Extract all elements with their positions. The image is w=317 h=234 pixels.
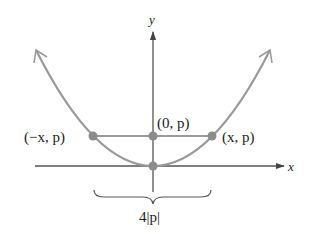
label-focus: (0, p) bbox=[157, 115, 190, 132]
label-right-point: (x, p) bbox=[222, 129, 255, 146]
parabola-diagram: y x (−x, p) (0, p) (x, p) 4|p| bbox=[0, 0, 317, 234]
point-vertex bbox=[149, 162, 158, 171]
brace-icon bbox=[94, 190, 211, 204]
y-axis-label: y bbox=[147, 12, 155, 27]
label-left-point: (−x, p) bbox=[24, 129, 65, 146]
point-left bbox=[89, 132, 98, 141]
point-focus bbox=[149, 132, 158, 141]
x-axis-label: x bbox=[287, 159, 294, 174]
brace-label: 4|p| bbox=[139, 209, 160, 225]
point-right bbox=[208, 132, 217, 141]
